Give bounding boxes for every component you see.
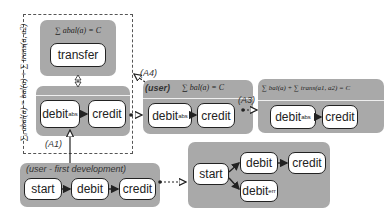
arrows-layer: [0, 0, 389, 220]
